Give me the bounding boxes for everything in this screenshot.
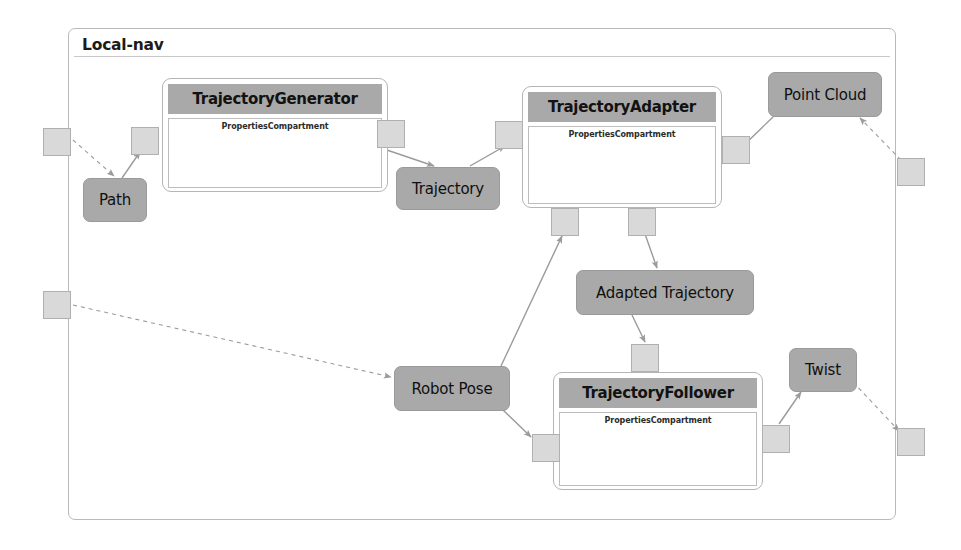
- port-tg-port-right[interactable]: [377, 120, 405, 148]
- port-tf-port-left[interactable]: [532, 434, 560, 462]
- component-title-trajectory-generator: TrajectoryGenerator: [168, 84, 382, 114]
- component-trajectory-follower[interactable]: TrajectoryFollowerPropertiesCompartment: [553, 372, 763, 490]
- port-ta-port-left[interactable]: [495, 121, 523, 149]
- package-frame-divider: [74, 56, 890, 57]
- port-tf-port-top[interactable]: [631, 344, 659, 372]
- compartment-label-trajectory-adapter: PropertiesCompartment: [529, 127, 715, 139]
- component-trajectory-generator[interactable]: TrajectoryGeneratorPropertiesCompartment: [162, 78, 388, 192]
- data-node-path[interactable]: Path: [83, 178, 147, 222]
- port-ta-port-right[interactable]: [722, 136, 750, 164]
- compartment-label-trajectory-follower: PropertiesCompartment: [560, 413, 756, 425]
- port-frame-port-left-top[interactable]: [43, 128, 71, 156]
- component-trajectory-adapter[interactable]: TrajectoryAdapterPropertiesCompartment: [522, 86, 722, 208]
- properties-compartment-trajectory-generator: PropertiesCompartment: [168, 118, 382, 188]
- properties-compartment-trajectory-adapter: PropertiesCompartment: [528, 126, 716, 204]
- data-node-robot-pose[interactable]: Robot Pose: [394, 366, 510, 411]
- component-title-trajectory-adapter: TrajectoryAdapter: [528, 92, 716, 122]
- port-frame-port-right-top[interactable]: [897, 158, 925, 186]
- port-frame-port-right-bottom[interactable]: [897, 428, 925, 456]
- port-tg-port-left[interactable]: [131, 127, 159, 155]
- data-node-point-cloud[interactable]: Point Cloud: [768, 72, 882, 117]
- port-ta-port-bottom-left[interactable]: [551, 208, 579, 236]
- data-node-twist[interactable]: Twist: [789, 348, 857, 392]
- data-node-trajectory[interactable]: Trajectory: [396, 167, 500, 210]
- diagram-canvas: Local-nav TrajectoryGeneratorPropertiesC…: [0, 0, 961, 550]
- properties-compartment-trajectory-follower: PropertiesCompartment: [559, 412, 757, 486]
- component-title-trajectory-follower: TrajectoryFollower: [559, 378, 757, 408]
- compartment-label-trajectory-generator: PropertiesCompartment: [169, 119, 381, 131]
- page-title: Local-nav: [82, 36, 164, 54]
- port-frame-port-left-bottom[interactable]: [43, 291, 71, 319]
- data-node-adapted-trajectory[interactable]: Adapted Trajectory: [576, 270, 754, 315]
- port-ta-port-bottom-right[interactable]: [628, 208, 656, 236]
- port-tf-port-right[interactable]: [762, 425, 790, 453]
